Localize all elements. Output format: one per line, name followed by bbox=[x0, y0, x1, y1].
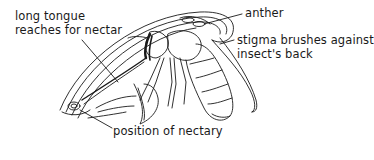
nectary-leader bbox=[80, 110, 112, 128]
label-anther: anther bbox=[245, 6, 284, 20]
label-stigma: stigma brushes against insect's back bbox=[237, 33, 374, 61]
label-long-tongue-line2: reaches for nectar bbox=[15, 23, 122, 37]
label-long-tongue-line1: long tongue bbox=[15, 9, 122, 23]
label-stigma-line1: stigma brushes against bbox=[237, 33, 374, 47]
label-stigma-line2: insect's back bbox=[237, 47, 374, 61]
insect-tongue bbox=[82, 58, 146, 104]
label-nectary: position of nectary bbox=[113, 124, 223, 138]
anther-shape bbox=[180, 16, 210, 26]
label-long-tongue: long tongue reaches for nectar bbox=[15, 9, 122, 37]
insect-legs bbox=[140, 58, 186, 108]
